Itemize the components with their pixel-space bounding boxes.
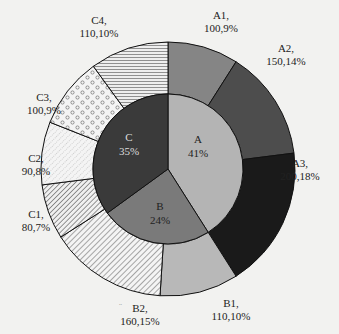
outer-label: C4,110,10% <box>79 14 118 39</box>
outer-label: C1,80,7% <box>22 208 50 233</box>
nested-donut-chart: A1,100,9%A2,150,14%A3,200,18%B1,110,10%B… <box>0 0 339 334</box>
outer-label: B1,110,10% <box>211 297 250 322</box>
outer-label: B2,160,15% <box>120 302 159 327</box>
outer-label: A2,150,14% <box>266 42 305 67</box>
stray-mark: .. <box>119 300 122 306</box>
outer-label: A1,100,9% <box>204 9 238 34</box>
outer-label: C3,100,9% <box>27 91 61 116</box>
